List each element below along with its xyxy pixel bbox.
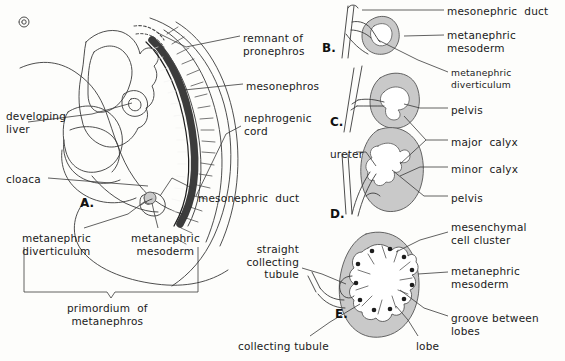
- panel-d-art: [342, 128, 423, 216]
- label-metanephric-diverticulum-c: metanephric diverticulum: [451, 67, 512, 90]
- panel-b-duct-top-hook: [348, 5, 358, 8]
- gut-loop-2: [64, 140, 121, 183]
- embryo-eye: [19, 17, 29, 27]
- label-remnant-of-pronephros: remnant of pronephros: [243, 32, 305, 57]
- label-mesonephros: mesonephros: [246, 80, 319, 93]
- panel-b-duct-left: [342, 6, 348, 58]
- label-developing-liver: developing liver: [6, 110, 66, 135]
- label-pelvis-c: pelvis: [451, 104, 483, 117]
- label-pelvis-d: pelvis: [451, 192, 483, 205]
- panel-e-art: [308, 232, 419, 337]
- leader-metanephric-mesoderm-e: [418, 272, 448, 274]
- label-metanephric-mesoderm-a: metanephric mesoderm: [131, 232, 200, 257]
- label-lobe: lobe: [416, 340, 439, 353]
- gut-loop-3: [62, 150, 136, 203]
- label-mesonephric-duct-b: mesonephric duct: [447, 5, 548, 18]
- embryo-body-outline: [20, 62, 182, 214]
- panel-letter-d: D.: [330, 207, 345, 221]
- leader-metanephric-mesoderm-b: [404, 35, 444, 36]
- label-metanephric-mesoderm-b: metanephric mesoderm: [447, 29, 516, 54]
- leader-nephrogenic-cord: [196, 126, 241, 196]
- panel-a-leaders: [24, 33, 243, 298]
- label-metanephric-mesoderm-e: metanephric mesoderm: [451, 265, 520, 290]
- leader-cloaca: [48, 178, 148, 186]
- panel-d-ureter-line-2: [342, 154, 346, 214]
- leader-straight-collecting-tubule: [302, 268, 346, 284]
- panel-b-mesoderm-inner: [370, 24, 392, 46]
- panel-letter-e: E.: [335, 307, 348, 321]
- label-minor-calyx: minor calyx: [451, 163, 518, 176]
- label-straight-collecting-tubule: straight collecting tubule: [229, 243, 299, 281]
- panel-letter-a: A.: [80, 196, 94, 210]
- embryology-figure: A. B. C. D. E. remnant of pronephros mes…: [0, 0, 565, 361]
- label-groove-between-lobes: groove between lobes: [451, 312, 539, 337]
- panel-c-duct-left: [344, 68, 354, 132]
- panel-b-art: [342, 5, 399, 58]
- label-major-calyx: major calyx: [451, 136, 518, 149]
- panel-c-art: [344, 66, 419, 132]
- label-ureter: ureter: [330, 148, 363, 161]
- label-collecting-tubule: collecting tubule: [238, 340, 329, 353]
- leader-mesonephros: [184, 84, 243, 90]
- label-primordium-of-metanephros: primordium of metanephros: [67, 302, 148, 327]
- leader-remnant-pronephros: [158, 33, 240, 47]
- embryo-head-inner: [88, 46, 132, 112]
- label-metanephric-diverticulum-a: metanephric diverticulum: [22, 232, 91, 257]
- label-mesonephric-duct-a: mesonephric duct: [198, 192, 299, 205]
- label-mesenchymal-cell-cluster: mesenchymal cell cluster: [451, 221, 527, 246]
- panel-b-duct-right: [348, 6, 354, 58]
- embryo-eye-inner: [22, 20, 26, 24]
- mesonephros-ridge: [152, 40, 195, 224]
- label-cloaca: cloaca: [6, 173, 41, 186]
- panel-letter-c: C.: [330, 115, 343, 129]
- panel-letter-b: B.: [322, 41, 336, 55]
- panel-c-duct-right: [350, 66, 362, 132]
- label-nephrogenic-cord: nephrogenic cord: [244, 112, 312, 137]
- panel-d-ureter-line: [348, 154, 352, 214]
- embryo-limb-bud-inner: [128, 98, 141, 110]
